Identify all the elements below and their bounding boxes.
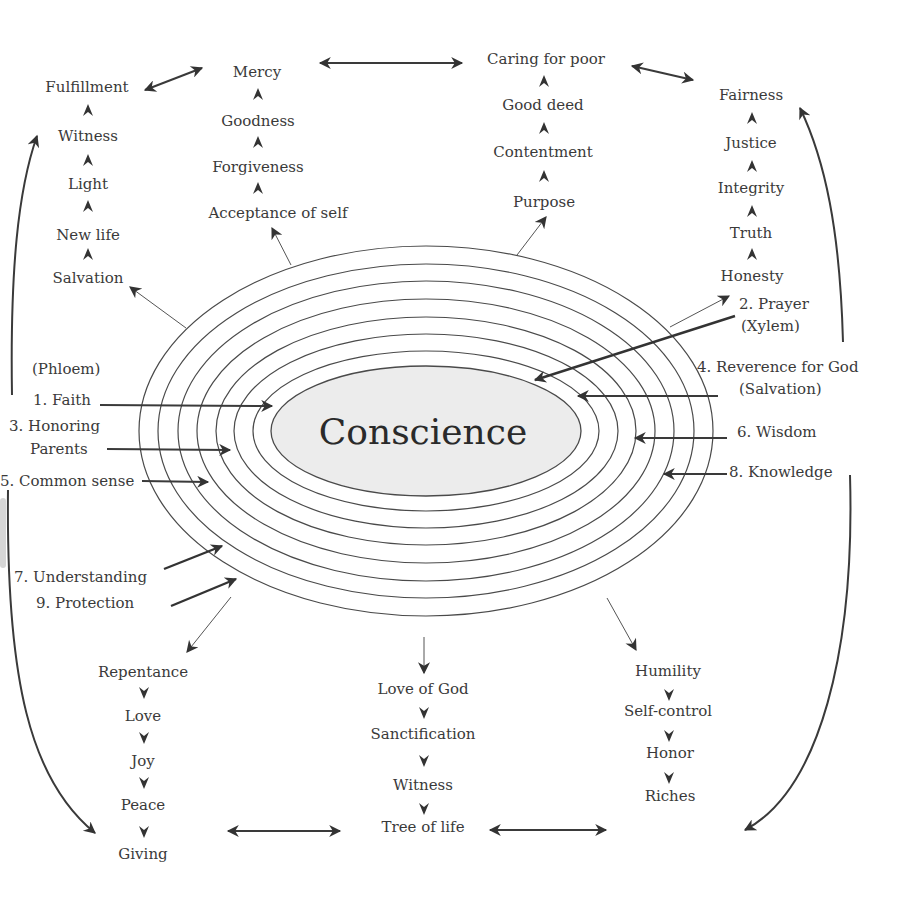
chain-item: Sanctification [371, 725, 476, 743]
down-arrow-icon [419, 707, 429, 719]
input-label-understanding: 7. Understanding [14, 568, 147, 586]
up-arrow-icon [83, 154, 93, 166]
down-arrow-icon [419, 755, 429, 767]
chain-item: Witness [393, 776, 453, 794]
input-label-reverence: 4. Reverence for God [697, 358, 859, 376]
chain-item: Light [68, 175, 108, 193]
down-arrow-icon [664, 772, 674, 784]
down-arrow-icon [139, 826, 149, 838]
chain-item: Witness [58, 127, 118, 145]
up-arrow-icon [83, 104, 93, 116]
up-arrow-icon [539, 75, 549, 87]
input-label-common-sense: 5. Common sense [0, 472, 134, 490]
up-arrow-icon [253, 182, 263, 194]
up-arrow-icon [747, 112, 757, 124]
conscience-diagram: Conscience Salvation New life Light Witn… [0, 0, 910, 914]
up-arrow-icon [747, 160, 757, 172]
chain-item: Salvation [53, 269, 124, 287]
input-label-honoring: Parents [30, 440, 88, 458]
input-label-honoring: 3. Honoring [9, 417, 101, 435]
chain-item: Love [125, 707, 161, 725]
chain-item: Contentment [493, 143, 593, 161]
chain-item: Good deed [502, 96, 584, 114]
up-arrow-icon [747, 205, 757, 217]
up-arrow-icon [83, 248, 93, 260]
input-label-knowledge: 8. Knowledge [729, 463, 833, 481]
input-label-prayer: (Xylem) [741, 317, 800, 335]
chain-item: Purpose [513, 193, 575, 211]
chain-item: Humility [635, 662, 701, 680]
down-arrow-icon [139, 777, 149, 789]
left-inputs: (Phloem) 1. Faith 3. Honoring Parents 5.… [0, 360, 272, 612]
phloem-label: (Phloem) [32, 360, 100, 378]
chain-item: Mercy [233, 63, 282, 81]
chain-item: Peace [121, 796, 166, 814]
chain-item: New life [56, 226, 120, 244]
down-arrow-icon [664, 689, 674, 701]
chain-item: Forgiveness [212, 158, 303, 176]
chain-item: Love of God [377, 680, 468, 698]
input-label-prayer: 2. Prayer [739, 295, 810, 313]
scan-smudge [0, 498, 6, 568]
chain-item: Acceptance of self [207, 204, 349, 222]
chain-item: Giving [118, 845, 168, 863]
chain-item: Goodness [221, 112, 295, 130]
center-label: Conscience [319, 411, 528, 452]
up-arrow-icon [539, 170, 549, 182]
input-label-wisdom: 6. Wisdom [737, 423, 817, 441]
chain-item: Joy [129, 752, 155, 770]
chain-item: Caring for poor [487, 50, 606, 68]
up-arrow-icon [253, 136, 263, 148]
down-arrow-icon [419, 803, 429, 815]
fairness-chain: Honesty Truth Integrity Justice Fairness [718, 86, 785, 285]
caring-chain: Purpose Contentment Good deed Caring for… [487, 50, 606, 211]
right-inputs: 2. Prayer (Xylem) 4. Reverence for God (… [535, 295, 859, 481]
chain-item: Tree of life [381, 818, 464, 836]
up-arrow-icon [83, 200, 93, 212]
mercy-chain: Acceptance of self Forgiveness Goodness … [207, 63, 349, 222]
humility-chain: Humility Self-control Honor Riches [624, 662, 712, 805]
chain-item: Justice [723, 134, 777, 152]
down-arrow-icon [139, 687, 149, 699]
up-arrow-icon [747, 248, 757, 260]
chain-item: Fulfillment [45, 78, 128, 96]
chain-item: Riches [645, 787, 696, 805]
left-upward-chain: Salvation New life Light Witness Fulfill… [45, 78, 128, 287]
chain-item: Truth [730, 224, 773, 242]
up-arrow-icon [253, 88, 263, 100]
repentance-chain: Repentance Love Joy Peace Giving [98, 663, 188, 863]
chain-item: Repentance [98, 663, 188, 681]
input-label-protection: 9. Protection [36, 594, 135, 612]
chain-item: Honesty [721, 267, 784, 285]
chain-item: Self-control [624, 702, 712, 720]
down-arrow-icon [139, 732, 149, 744]
chain-item: Honor [646, 744, 695, 762]
up-arrow-icon [539, 122, 549, 134]
down-arrow-icon [664, 730, 674, 742]
love-of-god-chain: Love of God Sanctification Witness Tree … [371, 680, 476, 836]
input-label-reverence: (Salvation) [739, 380, 822, 398]
chain-item: Fairness [719, 86, 783, 104]
chain-item: Integrity [718, 179, 785, 197]
input-label-faith: 1. Faith [33, 391, 91, 409]
